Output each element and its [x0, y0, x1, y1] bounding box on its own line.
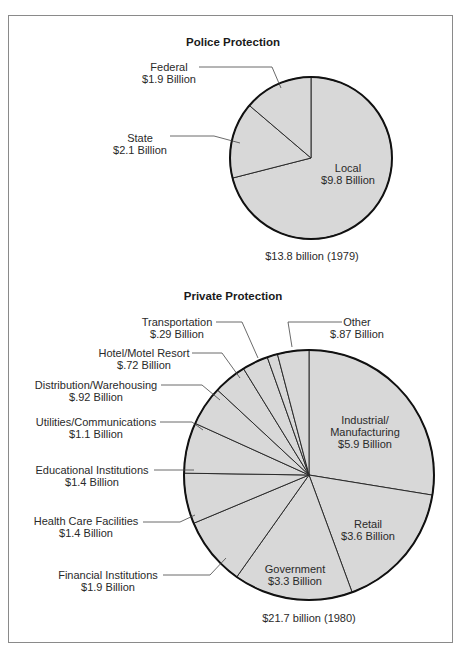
retail-label: Retail	[354, 518, 382, 530]
charts-canvas: Police Protection Federal $1.9 Billion S…	[0, 0, 465, 655]
local-label: Local	[335, 162, 361, 174]
leader-federal	[199, 67, 281, 88]
educational-label: Educational Institutions	[35, 464, 149, 476]
leader-health	[143, 515, 195, 522]
transportation-value: $.29 Billion	[150, 328, 204, 340]
police-pie	[230, 77, 392, 239]
industrial-value: $5.9 Billion	[338, 438, 392, 450]
private-title: Private Protection	[184, 290, 282, 302]
other-value: $.87 Billion	[330, 328, 384, 340]
financial-label: Financial Institutions	[58, 569, 158, 581]
federal-value: $1.9 Billion	[142, 73, 196, 85]
utilities-label: Utilities/Communications	[36, 416, 157, 428]
state-label: State	[127, 132, 153, 144]
industrial-label-1: Industrial/	[341, 414, 390, 426]
other-label: Other	[343, 316, 371, 328]
government-value: $3.3 Billion	[268, 575, 322, 587]
distribution-value: $.92 Billion	[69, 391, 123, 403]
educational-value: $1.4 Billion	[65, 476, 119, 488]
hotel-label: Hotel/Motel Resort	[98, 347, 189, 359]
retail-value: $3.6 Billion	[341, 530, 395, 542]
local-value: $9.8 Billion	[321, 174, 375, 186]
hotel-value: $.72 Billion	[117, 359, 171, 371]
leader-transportation	[216, 322, 258, 358]
utilities-value: $1.1 Billion	[69, 428, 123, 440]
state-value: $2.1 Billion	[113, 144, 167, 156]
private-total: $21.7 billion (1980)	[262, 612, 356, 624]
distribution-label: Distribution/Warehousing	[35, 379, 157, 391]
federal-label: Federal	[150, 61, 187, 73]
transportation-label: Transportation	[142, 316, 213, 328]
financial-value: $1.9 Billion	[81, 581, 135, 593]
leader-state	[170, 136, 240, 143]
industrial-label-2: Manufacturing	[330, 426, 400, 438]
police-total: $13.8 billion (1979)	[265, 250, 359, 262]
leader-hotel	[192, 353, 240, 378]
health-label: Health Care Facilities	[34, 515, 139, 527]
police-title: Police Protection	[186, 36, 280, 48]
government-label: Government	[265, 563, 326, 575]
health-value: $1.4 Billion	[59, 527, 113, 539]
